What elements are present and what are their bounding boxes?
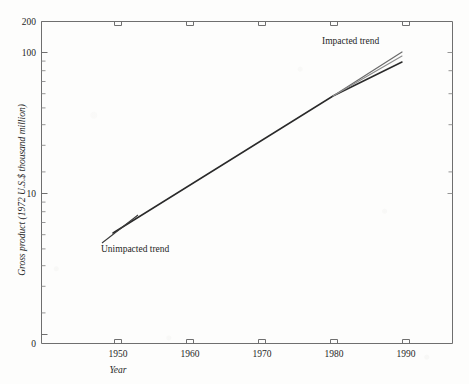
y-tick-label-200: 200	[22, 17, 37, 27]
figure-container: 200 100 10 0 1950 1960 1970 1980 1990 Ye…	[0, 0, 469, 384]
series-impacted-middle	[333, 56, 402, 96]
x-axis-ticks	[115, 340, 410, 344]
annotation-unimpacted-trend: Unimpacted trend	[101, 244, 170, 254]
x-axis-title: Year	[109, 365, 126, 375]
y-tick-label-0: 0	[31, 339, 36, 349]
x-tick-label-1970: 1970	[253, 349, 272, 359]
y-axis-major-ticks	[42, 22, 48, 335]
series-unimpacted-trend	[113, 62, 402, 233]
unimpacted-leader-line	[102, 215, 138, 243]
right-axis-ticks	[448, 53, 453, 194]
x-tick-label-1960: 1960	[181, 349, 200, 359]
annotation-impacted-trend: Impacted trend	[322, 36, 379, 46]
y-tick-label-100: 100	[22, 48, 37, 58]
chart-canvas: 200 100 10 0 1950 1960 1970 1980 1990 Ye…	[0, 0, 469, 384]
x-tick-label-1950: 1950	[109, 349, 128, 359]
x-tick-label-1990: 1990	[397, 349, 416, 359]
plot-frame	[42, 22, 453, 344]
y-axis-title: Gross product (1972 U.S.$ thousand milli…	[17, 104, 28, 276]
y-axis-minor-ticks-lower	[42, 202, 46, 313]
y-tick-label-10: 10	[27, 189, 37, 199]
y-axis-minor-ticks-upper	[42, 61, 46, 172]
x-tick-label-1980: 1980	[325, 349, 344, 359]
x-axis-top-ticks	[115, 22, 410, 26]
